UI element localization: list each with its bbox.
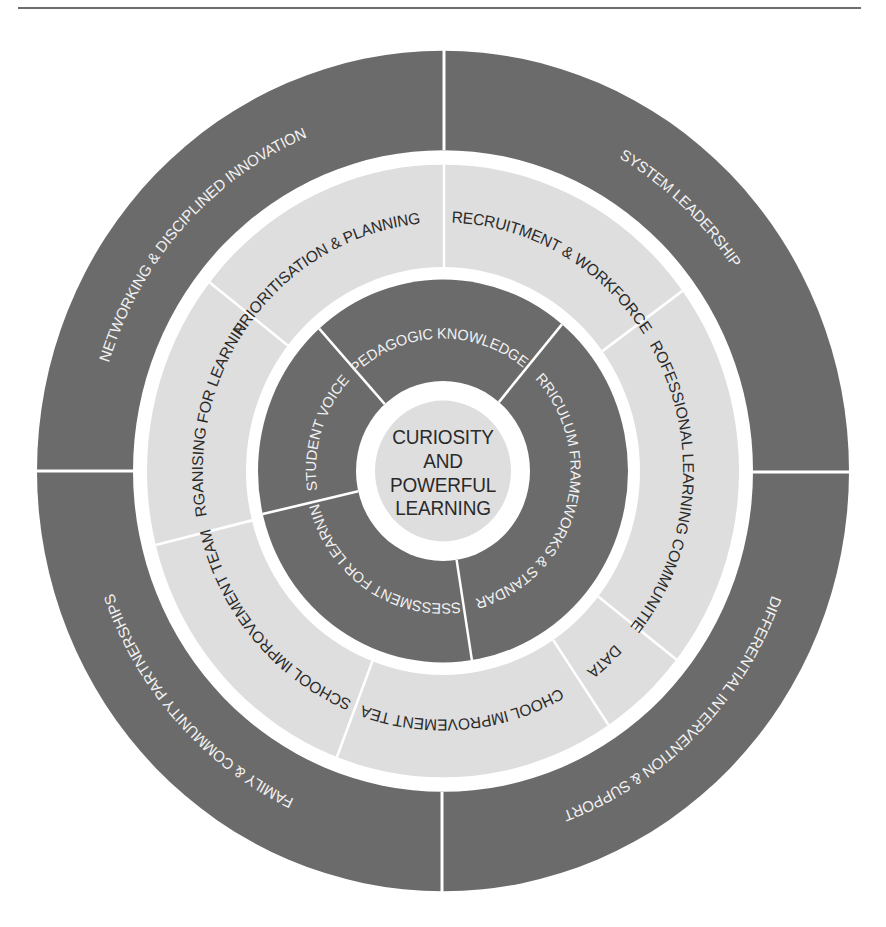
center-line-4: LEARNING: [395, 498, 491, 519]
center-line-2: AND: [423, 451, 463, 472]
center-line-3: POWERFUL: [390, 474, 496, 495]
center-line-1: CURIOSITY: [392, 427, 494, 448]
school-improvement-wheel-diagram: NETWORKING & DISCIPLINED INNOVATION SYST…: [0, 0, 886, 927]
